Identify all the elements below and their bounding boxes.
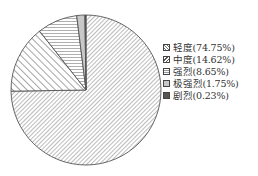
legend-swatch-icon: [163, 44, 170, 51]
legend: 轻度(74.75%)中度(14.62%)强烈(8.65%)极强烈(1.75%)剧…: [163, 41, 239, 101]
legend-item: 剧烈(0.23%): [163, 89, 239, 101]
pie-slices: [11, 15, 161, 165]
legend-swatch-icon: [163, 68, 170, 75]
legend-swatch-icon: [163, 80, 170, 87]
legend-swatch-icon: [163, 56, 170, 63]
legend-label: 剧烈(0.23%): [173, 88, 229, 102]
pie-chart: [0, 0, 175, 176]
legend-swatch-icon: [163, 92, 170, 99]
